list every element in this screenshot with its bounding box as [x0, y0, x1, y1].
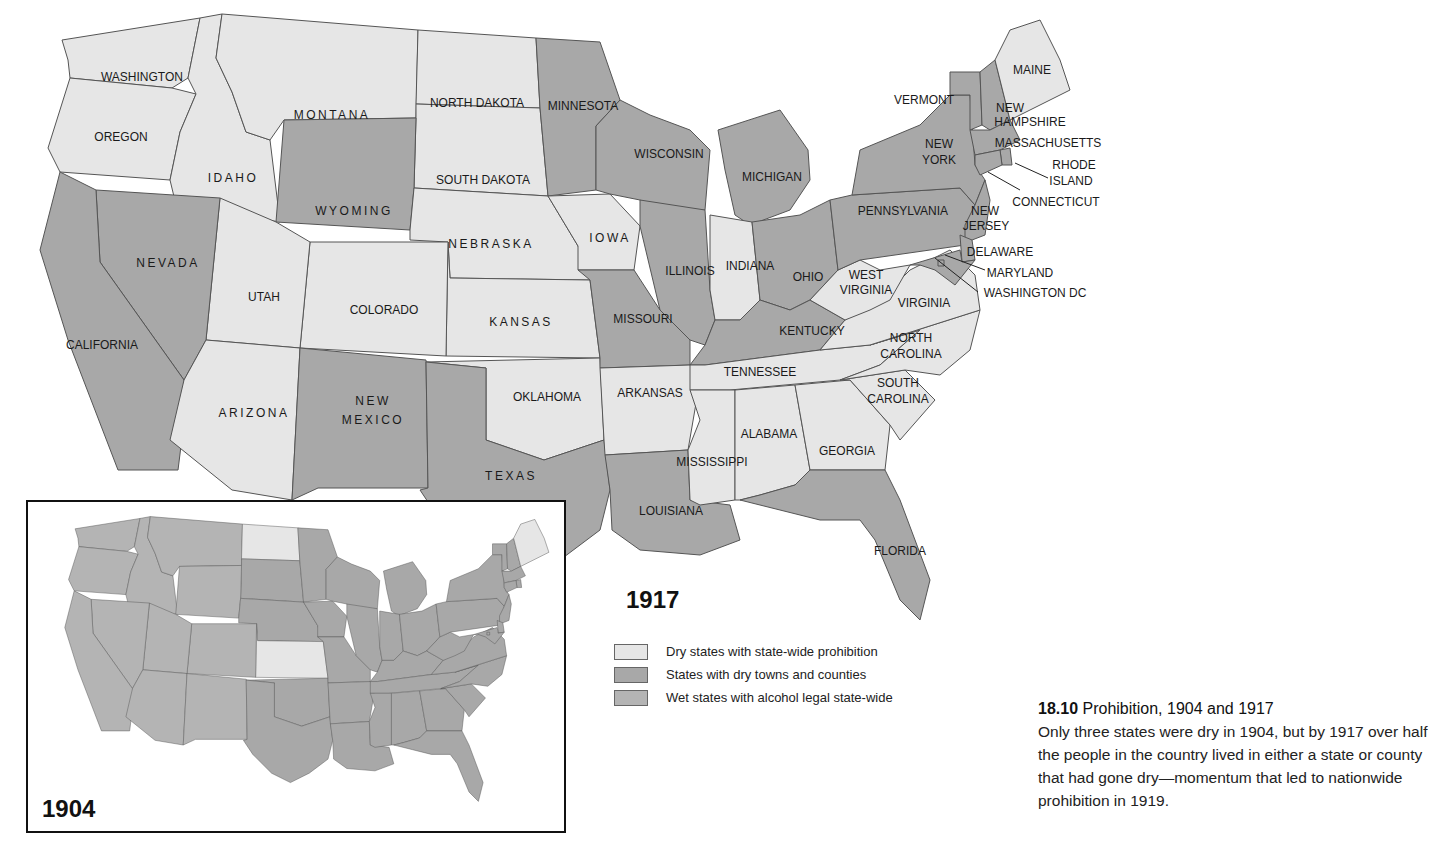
inset-year-label: 1904 [42, 795, 95, 823]
state-label-nevada: NEVADA [136, 256, 199, 270]
state-label-kansas: KANSAS [489, 315, 553, 329]
caption-title: 18.10 Prohibition, 1904 and 1917 [1038, 697, 1438, 720]
state-label-louisiana: LOUISIANA [639, 504, 703, 518]
state-label-arkansas: ARKANSAS [617, 386, 682, 400]
state-label-massachusetts: MASSACHUSETTS [995, 136, 1102, 150]
state-label-ohio: OHIO [793, 270, 824, 284]
state-michigan [718, 110, 810, 225]
state-label-wyoming: WYOMING [315, 204, 393, 218]
state-label-washington: WASHINGTON [101, 70, 183, 84]
state-label-new-hampshire: NEW [996, 101, 1025, 115]
state-label-new-jersey: NEW [971, 204, 1000, 218]
state-label-nebraska: NEBRASKA [448, 237, 533, 251]
legend-swatch-dry [614, 644, 648, 660]
figure-caption: 18.10 Prohibition, 1904 and 1917 Only th… [1038, 697, 1438, 812]
state-label-alabama: ALABAMA [741, 427, 798, 441]
inset-state-arkansas [328, 682, 375, 724]
state-label-north-carolina: CAROLINA [880, 347, 941, 361]
state-label-idaho: IDAHO [208, 171, 259, 185]
state-label-california: CALIFORNIA [66, 338, 138, 352]
state-label-arizona: ARIZONA [219, 406, 290, 420]
state-label-vermont: VERMONT [894, 93, 955, 107]
caption-body: Only three states were dry in 1904, but … [1038, 720, 1438, 812]
state-label-new-mexico: MEXICO [342, 413, 404, 427]
state-label-new-york: NEW [925, 137, 954, 151]
state-label-new-york: YORK [922, 153, 956, 167]
state-label-west-virginia: VIRGINIA [840, 283, 893, 297]
state-label-tennessee: TENNESSEE [724, 365, 797, 379]
inset-state-maine [514, 519, 549, 566]
state-label-north-carolina: NORTH [890, 331, 932, 345]
state-label-oklahoma: OKLAHOMA [513, 390, 581, 404]
legend-label: States with dry towns and counties [666, 667, 866, 682]
state-label-montana: MONTANA [294, 108, 371, 122]
state-label-south-dakota: SOUTH DAKOTA [436, 173, 530, 187]
state-label-illinois: ILLINOIS [665, 264, 714, 278]
state-label-minnesota: MINNESOTA [548, 99, 618, 113]
inset-map-1904: 1904 [26, 500, 566, 833]
state-label-iowa: IOWA [589, 231, 631, 245]
inset-state-michigan [383, 562, 426, 616]
inset-state-new-york [446, 555, 509, 607]
state-connecticut [975, 150, 1002, 175]
leader-line-connecticut [988, 172, 1020, 190]
inset-state-connecticut [504, 581, 517, 593]
legend-item-dry-towns: States with dry towns and counties [614, 663, 893, 686]
state-label-new-mexico: NEW [355, 394, 391, 408]
state-label-pennsylvania: PENNSYLVANIA [858, 204, 948, 218]
legend-swatch-wet [614, 690, 648, 706]
state-label-mississippi: MISSISSIPPI [676, 455, 747, 469]
legend-label: Wet states with alcohol legal state-wide [666, 690, 893, 705]
state-label-michigan: MICHIGAN [742, 170, 802, 184]
state-label-virginia: VIRGINIA [898, 296, 951, 310]
state-label-delaware: DELAWARE [967, 245, 1033, 259]
state-new-york [852, 95, 985, 205]
state-label-new-jersey: JERSEY [963, 219, 1010, 233]
map-legend: Dry states with state-wide prohibition S… [614, 640, 893, 709]
state-label-rhode-island: ISLAND [1049, 174, 1093, 188]
state-label-maryland: MARYLAND [987, 266, 1054, 280]
state-label-rhode-island: RHODE [1052, 158, 1095, 172]
state-label-maine: MAINE [1013, 63, 1051, 77]
state-arkansas [600, 365, 700, 455]
inset-state-florida [394, 731, 483, 802]
caption-title-text: Prohibition, 1904 and 1917 [1083, 700, 1274, 717]
state-label-colorado: COLORADO [350, 303, 419, 317]
inset-state-washington [75, 518, 140, 551]
inset-state-wyoming [176, 565, 242, 618]
state-label-indiana: INDIANA [726, 259, 775, 273]
state-colorado [300, 242, 448, 356]
state-label-north-dakota: NORTH DAKOTA [430, 96, 524, 110]
state-label-connecticut: CONNECTICUT [1012, 195, 1100, 209]
inset-state-south-dakota [241, 559, 304, 602]
inset-state-washington-dc [487, 632, 490, 635]
state-label-georgia: GEORGIA [819, 444, 875, 458]
inset-state-north-dakota [242, 524, 300, 561]
state-label-florida: FLORIDA [874, 544, 926, 558]
inset-state-new-mexico [183, 674, 247, 745]
legend-item-wet: Wet states with alcohol legal state-wide [614, 686, 893, 709]
legend-label: Dry states with state-wide prohibition [666, 644, 878, 659]
leader-line-rhode-island [1015, 163, 1048, 178]
state-label-kentucky: KENTUCKY [779, 324, 844, 338]
state-label-texas: TEXAS [485, 469, 537, 483]
state-label-missouri: MISSOURI [613, 312, 672, 326]
state-label-utah: UTAH [248, 290, 280, 304]
state-label-south-carolina: CAROLINA [867, 392, 928, 406]
legend-swatch-dry-towns [614, 667, 648, 683]
legend-item-dry: Dry states with state-wide prohibition [614, 640, 893, 663]
state-label-washington-dc: WASHINGTON DC [984, 286, 1087, 300]
state-label-oregon: OREGON [94, 130, 147, 144]
state-label-new-hampshire: HAMPSHIRE [994, 115, 1065, 129]
caption-number: 18.10 [1038, 700, 1078, 717]
inset-state-colorado [187, 624, 257, 678]
state-label-wisconsin: WISCONSIN [634, 147, 703, 161]
main-map-year-label: 1917 [626, 586, 679, 614]
state-label-west-virginia: WEST [849, 268, 884, 282]
state-label-south-carolina: SOUTH [877, 376, 919, 390]
